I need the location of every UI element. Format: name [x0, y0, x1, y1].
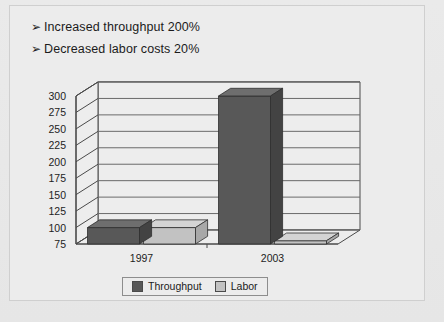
arrow-bullet-icon: ➢: [31, 42, 44, 57]
y-axis-tick-label: 250: [34, 124, 66, 134]
legend-swatch-throughput: [132, 281, 143, 292]
y-axis-tick-label: 100: [34, 223, 66, 233]
y-axis-tick-label: 175: [34, 173, 66, 183]
slide-frame: ➢ Increased throughput 200% ➢ Decreased …: [9, 5, 425, 301]
bullet-text: Increased throughput 200%: [44, 20, 200, 35]
slide-canvas: ➢ Increased throughput 200% ➢ Decreased …: [0, 0, 444, 322]
y-axis-labels: 30027525022520017515012510075: [32, 74, 66, 264]
bullet-text: Decreased labor costs 20%: [44, 42, 199, 57]
chart-legend: Throughput Labor: [122, 277, 268, 296]
legend-item-labor: Labor: [215, 281, 258, 292]
y-axis-tick-label: 200: [34, 157, 66, 167]
legend-swatch-labor: [215, 281, 226, 292]
y-axis-tick-label: 125: [34, 206, 66, 216]
y-axis-tick-label: 225: [34, 140, 66, 150]
chart-3d-plot: [32, 74, 402, 264]
x-axis-tick-label: 2003: [243, 252, 303, 264]
bar-chart: 30027525022520017515012510075 19972003 T…: [32, 74, 402, 299]
legend-item-throughput: Throughput: [132, 281, 202, 292]
bullet-item: ➢ Decreased labor costs 20%: [31, 42, 361, 57]
y-axis-tick-label: 300: [34, 91, 66, 101]
legend-label-throughput: Throughput: [148, 281, 202, 292]
x-axis-labels: 19972003: [32, 252, 402, 272]
chart-plot-area: 30027525022520017515012510075: [32, 74, 402, 264]
bullet-item: ➢ Increased throughput 200%: [31, 20, 361, 35]
x-axis-tick-label: 1997: [112, 252, 172, 264]
y-axis-tick-label: 75: [34, 239, 66, 249]
y-axis-tick-label: 150: [34, 190, 66, 200]
legend-label-labor: Labor: [231, 281, 258, 292]
arrow-bullet-icon: ➢: [31, 20, 44, 35]
bullet-list: ➢ Increased throughput 200% ➢ Decreased …: [31, 20, 361, 64]
y-axis-tick-label: 275: [34, 107, 66, 117]
